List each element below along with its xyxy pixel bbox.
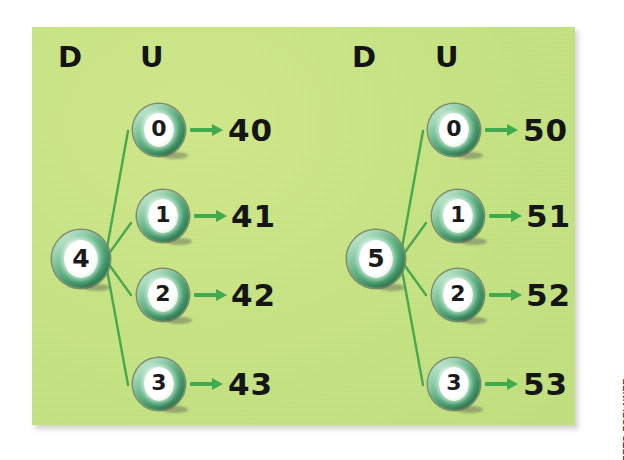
arrow-stem (485, 382, 508, 386)
illustration-credit: ILUSTRAÇÕES: ROBERTO ZOELNNER (620, 378, 624, 460)
ball-digit: 5 (367, 246, 384, 271)
tens-ball-5[interactable]: 5 (347, 230, 405, 288)
result-left-3: 43 (228, 369, 273, 400)
unit-ball-left-2[interactable]: 2 (137, 269, 189, 321)
arrow-left-1 (194, 210, 227, 222)
arrow-head (216, 210, 227, 222)
ball-digit: 0 (446, 118, 461, 140)
ball-disc: 1 (148, 199, 178, 233)
ball-digit: 3 (151, 372, 166, 394)
arrow-head (212, 124, 223, 136)
header-tens-left: D (58, 43, 83, 72)
result-right-0: 50 (523, 115, 568, 146)
ball-shadow (461, 317, 487, 324)
arrow-stem (194, 293, 217, 297)
unit-ball-left-3[interactable]: 3 (133, 358, 185, 410)
arrow-head (507, 124, 518, 136)
ball-shadow (162, 152, 188, 159)
arrow-stem (485, 128, 508, 132)
ball-shadow (166, 238, 192, 245)
header-tens-right: D (352, 43, 377, 72)
result-left-2: 42 (231, 280, 276, 311)
ball-shadow (379, 284, 405, 291)
arrow-stem (194, 214, 217, 218)
result-right-1: 51 (526, 201, 571, 232)
result-right-3: 53 (523, 369, 568, 400)
arrow-head (511, 289, 522, 301)
header-units-left: U (140, 43, 164, 72)
ball-digit: 1 (450, 204, 465, 226)
ball-shadow (457, 406, 483, 413)
arrow-right-3 (485, 378, 518, 390)
ball-shadow (162, 406, 188, 413)
ball-shadow (166, 317, 192, 324)
connector-lines (32, 27, 575, 425)
ball-digit: 4 (72, 246, 89, 271)
ball-shadow (457, 152, 483, 159)
ball-digit: 1 (155, 204, 170, 226)
unit-ball-right-2[interactable]: 2 (432, 269, 484, 321)
arrow-head (216, 289, 227, 301)
unit-ball-right-3[interactable]: 3 (428, 358, 480, 410)
ball-disc: 0 (439, 113, 469, 147)
ball-shadow (461, 238, 487, 245)
tens-ball-4[interactable]: 4 (52, 230, 110, 288)
green-panel: D U 4 0 40 1 (32, 27, 575, 425)
unit-ball-right-0[interactable]: 0 (428, 104, 480, 156)
ball-digit: 0 (151, 118, 166, 140)
arrow-stem (190, 382, 213, 386)
unit-ball-right-1[interactable]: 1 (432, 190, 484, 242)
figure-root: D U 4 0 40 1 (0, 0, 624, 460)
result-left-1: 41 (231, 201, 276, 232)
ball-digit: 2 (155, 283, 170, 305)
ball-disc: 2 (443, 278, 473, 312)
ball-disc: 3 (439, 367, 469, 401)
arrow-head (511, 210, 522, 222)
arrow-left-3 (190, 378, 223, 390)
arrow-stem (489, 293, 512, 297)
arrow-head (212, 378, 223, 390)
ball-disc: 5 (359, 240, 393, 278)
ball-disc: 3 (144, 367, 174, 401)
header-units-right: U (435, 43, 459, 72)
result-right-2: 52 (526, 280, 571, 311)
arrow-stem (489, 214, 512, 218)
ball-disc: 0 (144, 113, 174, 147)
ball-digit: 3 (446, 372, 461, 394)
ball-digit: 2 (450, 283, 465, 305)
ball-disc: 1 (443, 199, 473, 233)
ball-disc: 2 (148, 278, 178, 312)
arrow-stem (190, 128, 213, 132)
arrow-right-2 (489, 289, 522, 301)
arrow-right-1 (489, 210, 522, 222)
ball-shadow (84, 284, 110, 291)
arrow-left-2 (194, 289, 227, 301)
arrow-left-0 (190, 124, 223, 136)
arrow-head (507, 378, 518, 390)
ball-disc: 4 (64, 240, 98, 278)
result-left-0: 40 (228, 115, 273, 146)
arrow-right-0 (485, 124, 518, 136)
unit-ball-left-0[interactable]: 0 (133, 104, 185, 156)
unit-ball-left-1[interactable]: 1 (137, 190, 189, 242)
